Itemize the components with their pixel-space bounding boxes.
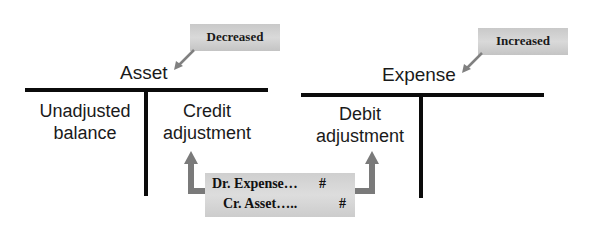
callout-pointer-arrow-icon <box>170 48 200 72</box>
unadjusted-balance-label: Unadjusted balance <box>30 100 140 144</box>
increased-callout-label: Increased <box>496 33 550 48</box>
decreased-callout-label: Decreased <box>207 29 264 44</box>
right-connector-arrow-icon <box>353 148 383 198</box>
callout-pointer-arrow-icon <box>458 51 488 75</box>
debit-entry-amount: # <box>319 176 326 192</box>
expense-account-title: Expense <box>382 64 456 86</box>
debit-adjustment-label: Debit adjustment <box>305 103 415 147</box>
asset-account-title: Asset <box>120 62 168 84</box>
increased-callout: Increased <box>478 28 568 55</box>
debit-entry-line: Dr. Expense… <box>212 176 298 192</box>
credit-adjustment-label: Credit adjustment <box>152 100 262 144</box>
expense-t-account-divider <box>419 93 423 198</box>
journal-entry-box: Dr. Expense… # Cr. Asset….. # <box>205 173 355 217</box>
credit-entry-line: Cr. Asset….. <box>223 196 297 212</box>
credit-entry-amount: # <box>339 196 346 212</box>
decreased-callout: Decreased <box>190 24 280 51</box>
asset-t-account-divider <box>144 88 148 196</box>
